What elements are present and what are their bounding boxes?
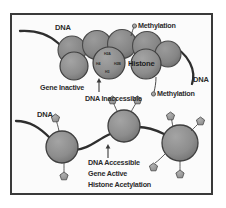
label-histone: Histone [128, 60, 154, 68]
methylation-mark-bottom [151, 77, 156, 96]
methyl-dot-icon [151, 92, 155, 96]
acetyl-pentagon-icon [176, 170, 184, 178]
acetyl-mark-3a [166, 112, 174, 127]
nucleosome-bottom-2 [108, 110, 140, 142]
acetyl-mark-1b [60, 163, 68, 180]
label-dna-inaccessible: DNA Inaccessible [85, 95, 142, 102]
label-histone-subunit-h3: H3 [105, 71, 109, 75]
acetyl-pentagon-icon [196, 117, 204, 125]
acetyl-mark-3c [149, 153, 166, 171]
arrow-up-icon-bottom [106, 144, 111, 158]
acetyl-mark-3d [176, 161, 184, 178]
label-dna-accessible: DNA Accessible [88, 159, 140, 166]
methyl-dot-icon [132, 24, 136, 28]
methylation-mark-top [131, 24, 137, 36]
label-histone-subunit-h4: H4 [96, 63, 100, 67]
arrow-up-icon-top [97, 78, 102, 92]
label-histone-subunit-h2b: H2B [114, 63, 121, 67]
label-gene-inactive: Gene Inactive [40, 84, 84, 91]
label-histone-acetylation: Histone Acetylation [88, 181, 151, 188]
acetyl-pentagon-icon [149, 163, 157, 171]
label-methylation-bottom: Methylation [157, 90, 195, 97]
label-gene-active: Gene Active [88, 170, 127, 177]
acetyl-pentagon-icon [166, 112, 174, 120]
label-dna-top-left: DNA [55, 24, 71, 32]
label-histone-subunit-h2a: H2A [104, 53, 111, 57]
acetyl-pentagon-icon [60, 172, 68, 180]
label-methylation-top: Methylation [138, 22, 176, 29]
label-dna-bottom-left: DNA [37, 111, 53, 119]
nucleosome-bottom-3 [162, 125, 198, 161]
acetyl-mark-3b [191, 117, 205, 131]
label-dna-top-right: DNA [193, 76, 209, 84]
epigenetics-diagram: DNA DNA Methylation Methylation Histone … [0, 0, 226, 208]
nucleosome-bottom-1 [46, 131, 78, 163]
